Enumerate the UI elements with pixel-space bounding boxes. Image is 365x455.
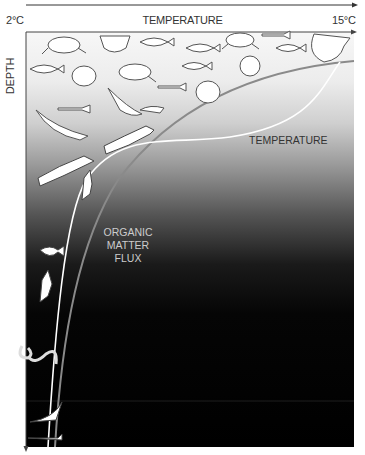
depth-axis-arrow <box>24 32 29 452</box>
squid-icon <box>82 170 92 200</box>
sea-turtle-icon <box>119 64 156 82</box>
anglerfish-icon <box>40 246 64 256</box>
temperature-axis-arrow <box>26 3 358 8</box>
sperm-whale-icon <box>36 110 88 140</box>
whale-shark-icon <box>312 34 350 62</box>
sunfish-icon <box>196 81 220 103</box>
whale-shark-icon <box>108 88 142 115</box>
deep-fish-icon <box>28 434 62 440</box>
grouper-icon <box>58 105 90 113</box>
tuna-icon <box>186 44 220 52</box>
tuna-icon <box>182 62 212 70</box>
eel-icon <box>20 346 56 364</box>
tuna-icon <box>140 106 164 113</box>
organic-matter-flux-label: ORGANIC MATTER FLUX <box>98 226 158 265</box>
grouper-icon <box>158 83 186 91</box>
temperature-curve-label: TEMPERATURE <box>249 134 328 147</box>
flux-label-line: ORGANIC <box>98 226 158 239</box>
sunfish-icon <box>240 56 260 76</box>
sperm-whale-icon <box>104 126 154 154</box>
sunfish-icon <box>100 36 130 52</box>
sunfish-icon <box>72 66 96 86</box>
flux-label-line: MATTER <box>98 239 158 252</box>
tuna-icon <box>276 44 306 52</box>
diagram-overlay <box>0 0 365 455</box>
temperature-curve <box>48 62 340 447</box>
panel-top-arrow <box>26 30 357 35</box>
sea-turtle-icon <box>42 37 86 54</box>
tuna-icon <box>140 38 174 46</box>
sea-turtle-icon <box>222 33 259 49</box>
tuna-icon <box>30 65 64 73</box>
squid-icon <box>40 270 52 302</box>
flux-label-line: FLUX <box>98 252 158 265</box>
